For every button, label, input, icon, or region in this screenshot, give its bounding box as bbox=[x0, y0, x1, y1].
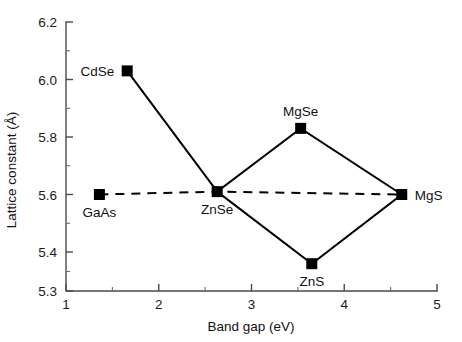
x-tick-label: 2 bbox=[155, 297, 163, 312]
y-axis-title: Lattice constant (Å) bbox=[4, 112, 19, 228]
y-tick-label: 5.6 bbox=[38, 188, 57, 203]
x-axis-title: Band gap (eV) bbox=[207, 319, 294, 334]
x-tick-label: 4 bbox=[340, 297, 348, 312]
data-point-label-znse: ZnSe bbox=[201, 202, 233, 217]
x-tick-label: 1 bbox=[62, 297, 70, 312]
y-tick-label: 5.4 bbox=[38, 245, 57, 260]
x-tick-label: 3 bbox=[248, 297, 256, 312]
chart-figure: 12345 6.26.05.85.65.45.3 CdSeGaAsZnSeMgS… bbox=[0, 0, 462, 342]
data-point-label-gaas: GaAs bbox=[83, 205, 117, 220]
y-tick-label: 6.0 bbox=[38, 73, 57, 88]
data-point-label-cdse: CdSe bbox=[80, 64, 114, 79]
y-tick-label: 6.2 bbox=[38, 15, 57, 30]
data-point-marker-mgse bbox=[295, 123, 306, 134]
data-point-marker-cdse bbox=[122, 65, 133, 76]
data-point-label-zns: ZnS bbox=[299, 274, 324, 289]
data-point-marker-mgs bbox=[396, 189, 407, 200]
data-point-marker-zns bbox=[306, 258, 317, 269]
data-point-label-mgse: MgSe bbox=[283, 104, 318, 119]
y-tick-label: 5.3 bbox=[38, 284, 57, 299]
data-point-label-mgs: MgS bbox=[415, 188, 443, 203]
y-tick-label: 5.8 bbox=[38, 130, 57, 145]
data-point-marker-gaas bbox=[94, 189, 105, 200]
lattice-constant-vs-band-gap-chart: 12345 6.26.05.85.65.45.3 CdSeGaAsZnSeMgS… bbox=[0, 0, 462, 342]
data-point-marker-znse bbox=[212, 186, 223, 197]
x-tick-label: 5 bbox=[433, 297, 441, 312]
